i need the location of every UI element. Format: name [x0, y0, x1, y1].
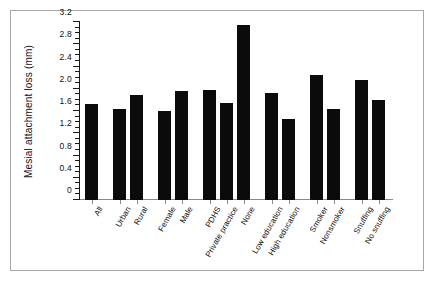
bar — [355, 80, 368, 200]
x-tick — [379, 200, 380, 204]
y-tick-minor — [75, 82, 80, 83]
x-tick — [120, 200, 121, 204]
y-tick-minor — [75, 143, 80, 144]
x-tick — [227, 200, 228, 204]
x-tick — [272, 200, 273, 204]
bar — [113, 109, 126, 200]
y-tick-major — [73, 21, 80, 22]
y-tick-label: 0.8 — [60, 141, 72, 151]
y-tick-minor — [75, 99, 80, 100]
y-tick-major — [73, 88, 80, 89]
y-tick-minor — [75, 160, 80, 161]
x-tick — [165, 200, 166, 204]
bar — [158, 111, 171, 200]
y-tick-minor — [75, 93, 80, 94]
y-tick-minor — [75, 193, 80, 194]
chart-figure: Mesial attachment loss (mm) 00.40.81.21.… — [0, 0, 436, 282]
bar — [175, 91, 188, 200]
bar — [372, 100, 385, 200]
y-tick-minor — [75, 27, 80, 28]
y-tick-major — [73, 43, 80, 44]
y-axis-title: Mesial attachment loss (mm) — [22, 22, 36, 200]
y-tick-minor — [75, 104, 80, 105]
bar — [310, 75, 323, 200]
y-tick-label: 3.2 — [60, 7, 72, 17]
plot-area: 00.40.81.21.62.02.42.83.2 AllUrbanRuralF… — [79, 22, 393, 200]
x-tick — [210, 200, 211, 204]
y-tick-minor — [75, 60, 80, 61]
y-tick-minor — [75, 138, 80, 139]
y-tick-label: 0.4 — [60, 163, 72, 173]
y-tick-minor — [75, 182, 80, 183]
y-tick-major — [73, 110, 80, 111]
y-tick-major — [73, 155, 80, 156]
bar — [130, 95, 143, 200]
y-tick-minor — [75, 149, 80, 150]
x-tick — [92, 200, 93, 204]
y-tick-label: 2.0 — [60, 74, 72, 84]
y-tick-minor — [75, 71, 80, 72]
y-tick-minor — [75, 38, 80, 39]
y-axis-title-text: Mesial attachment loss (mm) — [24, 44, 35, 177]
x-tick — [362, 200, 363, 204]
y-tick-minor — [75, 127, 80, 128]
y-tick-minor — [75, 54, 80, 55]
y-tick-label: 0 — [67, 185, 72, 195]
y-tick-label: 2.4 — [60, 52, 72, 62]
y-tick-minor — [75, 32, 80, 33]
y-tick-label: 1.2 — [60, 118, 72, 128]
bar — [220, 103, 233, 200]
y-tick-label: 1.6 — [60, 96, 72, 106]
y-tick-major — [73, 132, 80, 133]
x-tick — [244, 200, 245, 204]
y-tick-minor — [75, 49, 80, 50]
x-tick — [182, 200, 183, 204]
y-tick-minor — [75, 188, 80, 189]
y-tick-minor — [75, 121, 80, 122]
y-tick-major — [73, 66, 80, 67]
bar — [237, 25, 250, 200]
y-tick-minor — [75, 116, 80, 117]
x-tick — [137, 200, 138, 204]
bar — [203, 90, 216, 200]
y-tick-minor — [75, 171, 80, 172]
bar — [85, 104, 98, 200]
bar — [282, 119, 295, 200]
x-tick — [289, 200, 290, 204]
y-tick-minor — [75, 166, 80, 167]
bar — [265, 93, 278, 200]
bar — [327, 109, 340, 200]
y-tick-minor — [75, 77, 80, 78]
y-tick-major — [73, 177, 80, 178]
x-tick — [317, 200, 318, 204]
x-tick — [334, 200, 335, 204]
y-tick-major — [73, 199, 80, 200]
y-tick-label: 2.8 — [60, 29, 72, 39]
